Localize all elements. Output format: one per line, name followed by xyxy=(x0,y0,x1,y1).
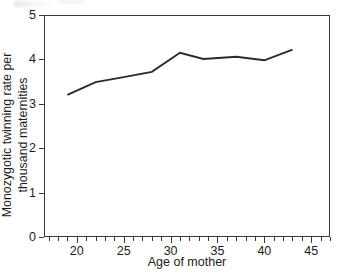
x-axis-label: Age of mother xyxy=(44,255,330,269)
y-tick-1 xyxy=(39,193,44,194)
x-minor-tick-32 xyxy=(189,237,190,241)
y-tick-label-0: 0 xyxy=(29,231,36,244)
x-minor-tick-27 xyxy=(142,237,143,241)
x-minor-tick-36 xyxy=(227,237,228,241)
plot-area xyxy=(44,15,330,237)
x-minor-tick-19 xyxy=(67,237,68,241)
x-major-tick-45 xyxy=(311,237,312,243)
x-minor-tick-33 xyxy=(199,237,200,241)
x-minor-tick-38 xyxy=(246,237,247,241)
x-minor-tick-44 xyxy=(302,237,303,241)
y-tick-3 xyxy=(39,104,44,105)
y-tick-label-5: 5 xyxy=(29,9,36,22)
x-minor-tick-18 xyxy=(58,237,59,241)
y-tick-2 xyxy=(39,148,44,149)
x-major-tick-25 xyxy=(124,237,125,243)
scan-artifact-smudge-secondary xyxy=(58,0,84,4)
x-major-tick-35 xyxy=(217,237,218,243)
x-minor-tick-46 xyxy=(321,237,322,241)
x-minor-tick-39 xyxy=(255,237,256,241)
y-axis-label: Monozygotic twinning rate per thousand m… xyxy=(0,40,30,230)
x-minor-tick-41 xyxy=(274,237,275,241)
x-minor-tick-42 xyxy=(283,237,284,241)
x-minor-tick-47 xyxy=(330,237,331,241)
chart-figure: 012345 202530354045 Age of mother Monozy… xyxy=(0,0,346,274)
x-minor-tick-37 xyxy=(236,237,237,241)
x-minor-tick-34 xyxy=(208,237,209,241)
y-tick-5 xyxy=(39,15,44,16)
x-minor-tick-21 xyxy=(86,237,87,241)
x-minor-tick-24 xyxy=(114,237,115,241)
x-minor-tick-22 xyxy=(96,237,97,241)
y-tick-4 xyxy=(39,59,44,60)
x-minor-tick-29 xyxy=(161,237,162,241)
x-minor-tick-23 xyxy=(105,237,106,241)
x-minor-tick-31 xyxy=(180,237,181,241)
scan-artifact-smudge xyxy=(14,1,58,7)
x-minor-tick-43 xyxy=(292,237,293,241)
y-axis-label-line-1: Monozygotic twinning rate per xyxy=(0,39,15,231)
x-minor-tick-17 xyxy=(49,237,50,241)
y-axis-label-line-2: thousand maternities xyxy=(15,39,31,231)
x-major-tick-20 xyxy=(77,237,78,243)
x-major-tick-40 xyxy=(264,237,265,243)
x-minor-tick-28 xyxy=(152,237,153,241)
x-major-tick-30 xyxy=(171,237,172,243)
x-minor-tick-26 xyxy=(133,237,134,241)
